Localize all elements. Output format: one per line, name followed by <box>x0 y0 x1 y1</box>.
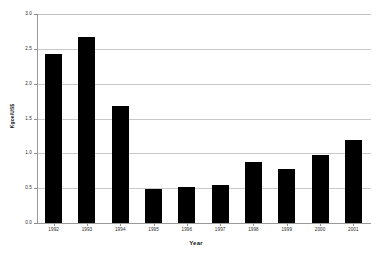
x-tick-label: 1997 <box>215 228 226 233</box>
bar <box>45 54 62 223</box>
x-tick-mark <box>154 223 155 226</box>
bar <box>312 155 329 223</box>
x-tick-label: 1992 <box>48 228 59 233</box>
bar <box>78 37 95 223</box>
x-tick-mark <box>287 223 288 226</box>
x-tick-mark <box>187 223 188 226</box>
x-tick-mark <box>120 223 121 226</box>
x-tick-mark <box>253 223 254 226</box>
x-tick-label: 2000 <box>315 228 326 233</box>
x-tick-label: 1994 <box>115 228 126 233</box>
x-tick-mark <box>87 223 88 226</box>
y-axis: 0.00.51.01.52.02.53.0 <box>0 0 37 238</box>
y-tick-label: 2.5 <box>25 47 32 52</box>
y-tick-label: 1.0 <box>25 151 32 156</box>
bar <box>245 162 262 223</box>
x-tick-mark <box>220 223 221 226</box>
x-tick-label: 1999 <box>281 228 292 233</box>
x-tick-mark <box>320 223 321 226</box>
bar <box>178 187 195 223</box>
x-tick-label: 1995 <box>148 228 159 233</box>
bar <box>212 185 229 223</box>
y-axis-title: Kgoe/US$ <box>10 104 15 128</box>
y-tick-label: 1.5 <box>25 116 32 121</box>
bars-layer <box>37 14 370 223</box>
bar <box>112 106 129 223</box>
bar <box>345 140 362 223</box>
x-axis-title: Year <box>0 240 392 246</box>
x-tick-label: 2001 <box>348 228 359 233</box>
x-tick-label: 1996 <box>182 228 193 233</box>
x-tick-label: 1993 <box>82 228 93 233</box>
x-tick-mark <box>54 223 55 226</box>
bar <box>278 169 295 223</box>
x-tick-label: 1998 <box>248 228 259 233</box>
y-tick-label: 0.0 <box>25 221 32 226</box>
y-tick-label: 0.5 <box>25 186 32 191</box>
bar-chart: 0.00.51.01.52.02.53.0 Kgoe/US$ 199219931… <box>0 0 392 259</box>
bar <box>145 189 162 223</box>
y-tick-label: 3.0 <box>25 12 32 17</box>
x-tick-mark <box>353 223 354 226</box>
y-tick-label: 2.0 <box>25 81 32 86</box>
